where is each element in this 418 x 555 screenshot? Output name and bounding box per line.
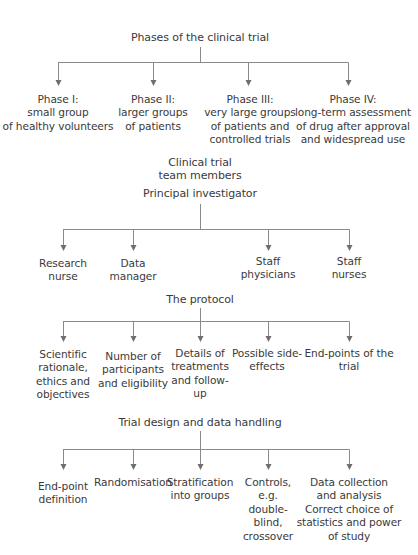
arrow-down-icon (61, 336, 67, 342)
principal-investigator: Principal investigator (143, 187, 257, 200)
end-point-definition-node: End-point definition (38, 480, 88, 507)
data-collection-node: Data collection and analysis Correct cho… (297, 476, 402, 543)
trial-design-connectors (63, 431, 350, 464)
arrow-down-icon (131, 245, 137, 251)
arrow-down-icon (347, 245, 353, 251)
arrow-down-icon (198, 336, 204, 342)
phase-2-node: Phase II: larger groups of patients (118, 93, 188, 133)
phase-1-node: Phase I: small group of healthy voluntee… (3, 93, 114, 133)
data-manager-node: Data manager (110, 257, 157, 284)
team-connectors (63, 204, 350, 245)
arrow-down-icon (246, 80, 252, 86)
participants-node: Number of participants and eligibility (98, 350, 168, 390)
arrow-down-icon (198, 464, 204, 470)
trial-design-title: Trial design and data handling (118, 416, 281, 429)
scientific-rationale-node: Scientific rationale, ethics and objecti… (36, 348, 90, 402)
arrow-down-icon (266, 245, 272, 251)
research-nurse-node: Research nurse (39, 257, 87, 284)
arrow-down-icon (61, 245, 67, 251)
arrow-down-icon (347, 464, 353, 470)
team-title: Clinical trial team members (158, 156, 241, 183)
phase-3-node: Phase III: very large groups of patients… (204, 93, 296, 147)
protocol-connectors (63, 308, 350, 336)
arrow-down-icon (346, 80, 352, 86)
end-points-node: End-points of the trial (304, 347, 393, 374)
phases-title: Phases of the clinical trial (131, 31, 269, 44)
staff-physicians-node: Staff physicians (241, 255, 296, 282)
arrow-down-icon (56, 80, 62, 86)
protocol-title: The protocol (166, 293, 234, 306)
arrow-down-icon (266, 336, 272, 342)
side-effects-node: Possible side- effects (232, 347, 302, 374)
arrow-down-icon (61, 464, 67, 470)
phases-connectors (58, 47, 349, 80)
controls-node: Controls, e.g. double- blind, crossover (243, 476, 293, 543)
arrow-down-icon (347, 336, 353, 342)
arrow-down-icon (151, 80, 157, 86)
arrow-down-icon (266, 464, 272, 470)
stratification-node: Stratification into groups (167, 476, 234, 503)
arrow-down-icon (131, 336, 137, 342)
arrow-down-icon (131, 464, 137, 470)
phase-4-node: Phase IV: long-term assessment of drug a… (295, 93, 411, 147)
staff-nurses-node: Staff nurses (332, 255, 367, 282)
randomisation-node: Randomisation (94, 476, 172, 489)
treatment-details-node: Details of treatments and follow- up (171, 347, 229, 401)
